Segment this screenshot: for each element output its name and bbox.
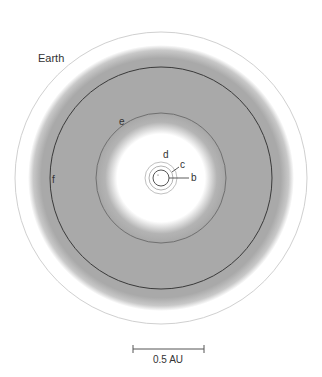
label-d: d (163, 150, 169, 160)
label-b: b (191, 173, 197, 183)
label-f: f (52, 175, 55, 185)
label-c: c (180, 160, 185, 170)
label-e: e (119, 117, 125, 127)
star-marker (157, 174, 158, 175)
scale-bar-label: 0.5 AU (153, 355, 183, 365)
habitable-zone-band (28, 45, 294, 311)
label-earth: Earth (38, 53, 64, 64)
